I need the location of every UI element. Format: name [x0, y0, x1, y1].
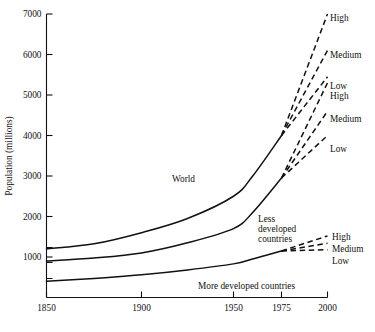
- projection-line-world-high: [282, 14, 328, 136]
- projection-line-less-developed-countries-medium: [282, 111, 328, 178]
- y-axis: 1000200030004000500060007000 Population …: [4, 9, 53, 297]
- world-low-label: Low: [330, 81, 347, 91]
- y-tick-label: 5000: [23, 90, 42, 100]
- less-developed-medium-label: Medium: [330, 114, 362, 124]
- world-medium-label: Medium: [330, 50, 362, 60]
- x-tick-label: 1900: [132, 303, 151, 313]
- y-axis-title: Population (millions): [4, 116, 15, 195]
- projection-line-world-medium: [282, 50, 328, 135]
- y-tick-label: 1000: [23, 252, 42, 262]
- y-tick-label: 6000: [23, 50, 42, 60]
- series-line-more-developed-countries: [47, 251, 282, 281]
- more-developed-medium-label: Medium: [332, 244, 364, 254]
- less-developed-series-label-line2: developed: [258, 224, 297, 234]
- y-axis-minor-ticks: [47, 248, 53, 279]
- more-developed-high-label: High: [332, 232, 351, 242]
- population-projection-chart: 1000200030004000500060007000 Population …: [0, 0, 375, 332]
- series-line-less-developed-countries: [47, 178, 282, 261]
- projection-line-less-developed-countries-high: [282, 83, 328, 178]
- projection-line-more-developed-countries-low: [282, 250, 328, 251]
- series-annotations: World Less developed countries More deve…: [172, 13, 364, 291]
- series-line-world: [47, 136, 282, 249]
- projection-line-world-low: [282, 77, 328, 136]
- less-developed-series-label-line1: Less: [258, 214, 275, 224]
- x-axis: 18501900195019752000: [37, 292, 337, 313]
- x-tick-label: 1850: [37, 303, 56, 313]
- y-tick-label: 3000: [23, 171, 42, 181]
- y-tick-label: 2000: [23, 212, 42, 222]
- less-developed-high-label: High: [330, 91, 349, 101]
- y-axis-ticks: [47, 14, 53, 257]
- world-series-label: World: [172, 174, 195, 184]
- x-tick-label: 1975: [272, 303, 291, 313]
- y-tick-label: 7000: [23, 9, 42, 19]
- x-tick-label: 1950: [224, 303, 243, 313]
- y-axis-tick-labels: 1000200030004000500060007000: [23, 9, 42, 262]
- x-axis-tick-labels: 18501900195019752000: [37, 303, 337, 313]
- projection-line-less-developed-countries-low: [282, 136, 328, 179]
- series-historical-lines: [47, 136, 282, 282]
- x-tick-label: 2000: [318, 303, 337, 313]
- less-developed-series-label-line3: countries: [258, 234, 292, 244]
- series-projection-lines: [282, 14, 328, 251]
- more-developed-low-label: Low: [332, 256, 349, 266]
- less-developed-low-label: Low: [330, 144, 347, 154]
- chart-canvas: 1000200030004000500060007000 Population …: [0, 0, 375, 332]
- more-developed-series-label: More developed countries: [198, 281, 295, 291]
- world-high-label: High: [330, 13, 349, 23]
- y-tick-label: 4000: [23, 131, 42, 141]
- x-axis-ticks: [47, 292, 328, 298]
